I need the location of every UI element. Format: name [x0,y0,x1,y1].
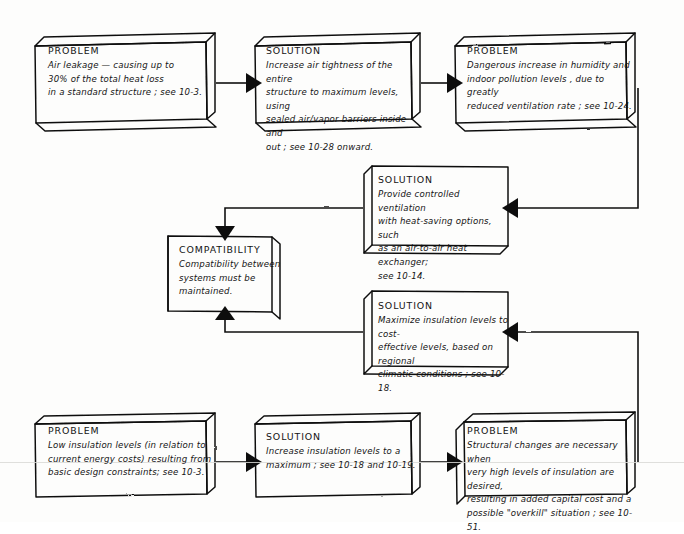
node-body-line: Dangerous increase in humidity and [467,59,635,73]
node-heading: SOLUTION [378,299,512,313]
node-body-line: indoor pollution levels , due to greatly [467,73,635,100]
node-body-line: Maximize insulation levels to cost- [378,314,512,341]
node-body-line: maintained. [179,285,283,299]
node-body-line: with heat-saving options, such [378,215,510,242]
node-body-line: basic design constraints; see 10-3. [48,466,218,480]
node-body-line: reduced ventilation rate ; see 10-24. [467,100,635,114]
node-body-line: maximum ; see 10-18 and 10-19. [266,459,418,473]
node-heading: PROBLEM [467,424,637,438]
node-compatibility: COMPATIBILITY Compatibility between syst… [179,243,283,299]
node-body-line: 30% of the total heat loss [48,73,216,87]
node-solution-controlled-ventilation: SOLUTION Provide controlled ventilation … [378,173,510,283]
node-solution-increase-insulation: SOLUTION Increase insulation levels to a… [266,430,418,472]
arrowhead-c4 [215,226,235,241]
node-solution-maximize-insulation: SOLUTION Maximize insulation levels to c… [378,299,512,396]
arrowhead-c7 [246,452,262,472]
node-problem-humidity-pollution: PROBLEM Dangerous increase in humidity a… [467,44,635,113]
connector-c6 [518,332,638,340]
arrowhead-c8 [447,452,463,472]
node-heading: SOLUTION [266,44,416,58]
node-heading: PROBLEM [467,44,635,58]
node-heading: PROBLEM [48,44,216,58]
node-body-line: structure to maximum levels, using [266,86,416,113]
node-body-line: very high levels of insulation are desir… [467,466,637,493]
node-problem-air-leakage: PROBLEM Air leakage — causing up to 30% … [48,44,216,100]
node-body-line: see 10-14. [378,270,510,284]
node-body-line: as an air-to-air heat exchanger; [378,242,510,269]
node-body-line: possible "overkill" situation ; see 10-5… [467,507,637,534]
node-solution-air-tightness: SOLUTION Increase air tightness of the e… [266,44,416,154]
node-problem-structural-changes: PROBLEM Structural changes are necessary… [467,424,637,534]
node-body-line: Low insulation levels (in relation to [48,439,218,453]
arrowhead-c5 [215,306,235,320]
node-body-line: current energy costs) resulting from [48,453,218,467]
node-body-line: Structural changes are necessary when [467,439,637,466]
node-body-line: effective levels, based on regional [378,341,512,368]
node-body-line: Compatibility between [179,258,283,272]
node-body-line: sealed air/vapor barriers inside and [266,113,416,140]
node-heading: COMPATIBILITY [179,243,283,257]
node-heading: SOLUTION [378,173,510,187]
node-body-line: Provide controlled ventilation [378,188,510,215]
node-body-line: Increase insulation levels to a [266,445,418,459]
connector-c4 [225,208,363,226]
node-body-line: in a standard structure ; see 10-3. [48,86,216,100]
node-heading: PROBLEM [48,424,218,438]
node-body-line: systems must be [179,272,283,286]
node-body-line: climatic conditions ; see 10-18. [378,368,512,395]
node-problem-low-insulation: PROBLEM Low insulation levels (in relati… [48,424,218,480]
node-body-line: Increase air tightness of the entire [266,59,416,86]
node-body-line: resulting in added capital cost and a [467,493,637,507]
node-body-line: out ; see 10-28 onward. [266,141,416,155]
node-body-line: Air leakage — causing up to [48,59,216,73]
node-heading: SOLUTION [266,430,418,444]
connector-c5 [225,320,363,332]
arrowhead-c1 [246,73,262,93]
